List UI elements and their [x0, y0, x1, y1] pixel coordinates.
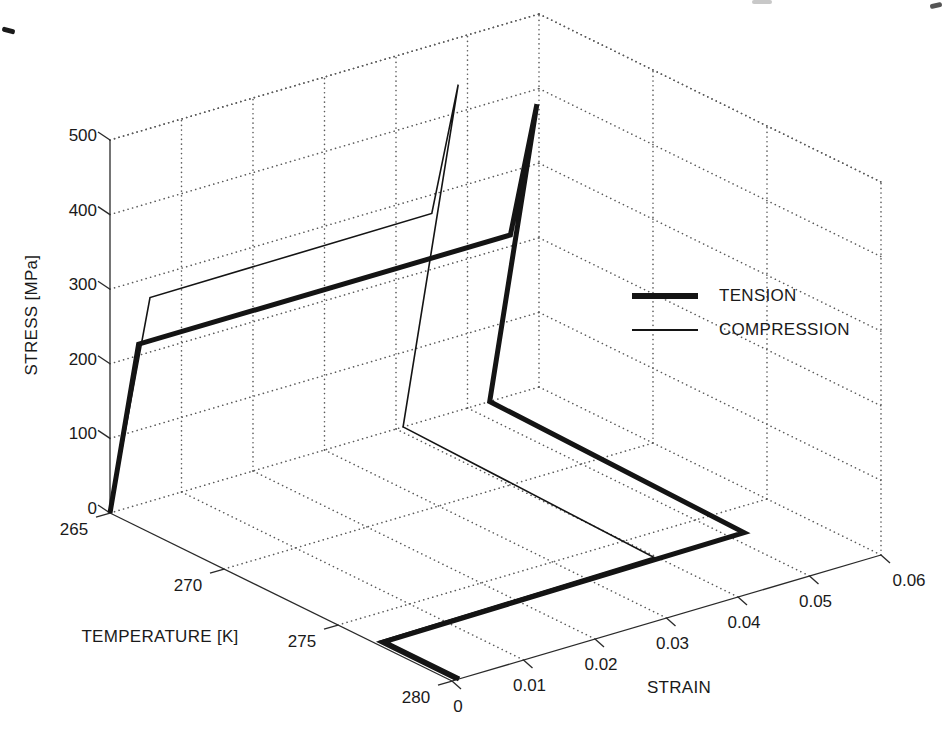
stress-axis-label: STRESS [MPa]: [22, 215, 42, 415]
strain-tick-label: 0.05: [789, 592, 843, 612]
legend-label-tension: TENSION: [719, 286, 797, 306]
compression-line-sample: [632, 329, 698, 331]
strain-tick-label: 0.06: [882, 571, 936, 591]
strain-tick-label: 0.02: [574, 655, 628, 675]
figure: STRESS [MPa] TEMPERATURE [K] STRAIN TENS…: [0, 0, 950, 738]
stress-tick-label: 200: [51, 350, 97, 370]
strain-tick-label: 0.04: [717, 613, 771, 633]
temperature-tick-label: 265: [50, 520, 98, 540]
temperature-axis-label: TEMPERATURE [K]: [60, 627, 260, 647]
tension-line-sample: [632, 293, 698, 299]
legend-item-tension: TENSION: [632, 284, 850, 308]
stress-tick-label: 300: [51, 275, 97, 295]
legend-item-compression: COMPRESSION: [632, 318, 850, 342]
legend-label-compression: COMPRESSION: [719, 320, 850, 340]
legend: TENSION COMPRESSION: [632, 284, 850, 342]
stress-tick-label: 500: [51, 126, 97, 146]
temperature-tick-label: 270: [164, 576, 212, 596]
stress-tick-label: 100: [51, 424, 97, 444]
stress-tick-label: 400: [51, 201, 97, 221]
temperature-tick-label: 275: [278, 632, 326, 652]
strain-axis-label: STRAIN: [629, 678, 729, 698]
strain-tick-label: 0.01: [503, 676, 557, 696]
strain-tick-label: 0: [431, 697, 485, 717]
strain-tick-label: 0.03: [646, 634, 700, 654]
stress-tick-label: 0: [51, 499, 97, 519]
scan-artifact: [752, 0, 772, 4]
